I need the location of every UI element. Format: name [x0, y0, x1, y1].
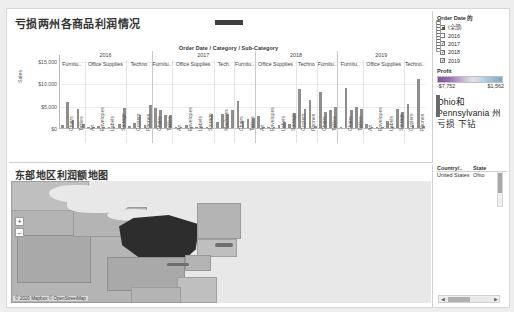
chart-bar[interactable] — [128, 126, 131, 128]
chart-subcategory-label[interactable]: Phones — [145, 114, 151, 131]
filter-item-2016[interactable]: 2016 — [436, 31, 507, 39]
chart-subcategory-label[interactable]: Tables — [78, 116, 84, 131]
chart-subcategory-label[interactable]: Labels — [388, 116, 394, 131]
legend-drag-handle[interactable] — [436, 95, 440, 117]
chart-subcategory-label[interactable]: Phones — [310, 114, 316, 131]
chart-category-header[interactable]: Furnitu.. — [152, 60, 173, 68]
chart-category-separator — [214, 60, 215, 143]
chart-year-header[interactable]: 2017 — [152, 51, 255, 59]
checkbox-icon[interactable] — [440, 58, 445, 63]
bar-chart-pane[interactable]: 亏损两州各商品利润情况 Order Date / Category / Sub-… — [9, 11, 433, 163]
chart-subcategory-label[interactable]: Copiers — [408, 113, 414, 131]
profit-color-ramp[interactable] — [437, 76, 503, 83]
chart-subcategory-label[interactable]: Art — [176, 124, 182, 131]
chart-subcategory-label[interactable]: Tables — [331, 116, 337, 131]
map-region-ohio[interactable] — [17, 235, 91, 283]
chart-subcategory-label[interactable]: Envelopes — [187, 107, 193, 131]
chart-subcategory-label[interactable]: Labels — [109, 116, 115, 131]
y-axis: $15,000$10,000$5,000$0 — [15, 55, 59, 129]
map-zoom-in-button[interactable]: + — [15, 217, 24, 226]
chart-category-header[interactable]: Office Supplies — [363, 60, 404, 68]
scroll-left-arrow[interactable]: ◀ — [439, 296, 446, 302]
chart-year-header[interactable]: 2019 — [337, 51, 425, 59]
chart-tooltip-tab[interactable] — [215, 20, 243, 25]
chart-category-header[interactable]: Techno — [296, 60, 317, 68]
order-date-filter-card[interactable]: Order Date 的 (全部)2016201720182019 — [436, 13, 507, 65]
profit-legend-min: -$7,752 — [437, 83, 455, 89]
chart-subcategory-label[interactable]: Chairs — [68, 116, 74, 131]
chart-subcategory-label[interactable]: Labels — [280, 116, 286, 131]
profit-legend-card[interactable]: Profit -$7,752 $1,562 — [436, 67, 507, 89]
chart-category-header[interactable]: Furnitu.. — [59, 60, 85, 68]
chart-subcategory-label[interactable]: Art — [367, 124, 373, 131]
chart-bar[interactable] — [61, 125, 64, 128]
chart-subcategory-label[interactable]: Chairs — [321, 116, 327, 131]
chart-subcategory-label[interactable]: Storage — [290, 113, 296, 131]
map-zoom-out-button[interactable]: – — [15, 228, 24, 237]
chart-subcategory-label[interactable]: Art — [89, 124, 95, 131]
y-axis-tick: $5,000 — [41, 104, 57, 110]
chart-bar[interactable] — [340, 127, 343, 128]
filter-item-label: 2016 — [448, 33, 460, 39]
chart-category-separator — [126, 60, 127, 143]
window-frame-right — [510, 0, 514, 312]
table-vertical-scrollbar[interactable] — [497, 171, 503, 207]
chart-year-header[interactable]: 2016 — [59, 51, 152, 59]
chart-category-separator — [85, 60, 86, 143]
filter-item-2017[interactable]: 2017 — [436, 40, 507, 48]
chart-subcategory-label[interactable]: Machines — [223, 109, 229, 131]
chart-subcategory-label[interactable]: Chairs — [238, 116, 244, 131]
chart-subcategory-label[interactable]: Envelopes — [99, 107, 105, 131]
chart-category-header[interactable]: Office Supplies — [172, 60, 213, 68]
map-region-new-england-north[interactable] — [197, 203, 241, 239]
chart-subcategory-label[interactable]: Envelopes — [269, 107, 275, 131]
panel-horizontal-scrollbar[interactable]: ◀ ▶ — [438, 295, 500, 303]
chart-subcategory-label[interactable]: Tables — [249, 116, 255, 131]
scrollbar-thumb[interactable] — [448, 297, 470, 302]
map-pane[interactable]: 东部地区利润额地图 — [9, 165, 433, 307]
chart-subcategory-label[interactable]: Labels — [197, 116, 203, 131]
chart-category-header[interactable]: Furnitu.. — [337, 60, 363, 68]
y-axis-tick: $10,000 — [38, 81, 57, 87]
filter-drag-handle[interactable] — [436, 20, 441, 52]
chart-subcategory-label[interactable]: Phones — [419, 114, 425, 131]
chart-category-header[interactable]: Techno — [126, 60, 152, 68]
chart-category-header[interactable]: Office Supplies — [85, 60, 126, 68]
filter-item-2018[interactable]: 2018 — [436, 48, 507, 56]
scroll-right-arrow[interactable]: ▶ — [492, 296, 499, 302]
chart-subcategory-label[interactable]: Storage — [120, 113, 126, 131]
chart-subcategory-label[interactable]: Chairs — [347, 116, 353, 131]
cell-country: United States — [436, 172, 472, 179]
order-date-filter-list[interactable]: (全部)2016201720182019 — [436, 23, 507, 65]
chart-subcategory-label[interactable]: Chairs — [156, 116, 162, 131]
chart-subcategory-label[interactable]: Tables — [357, 116, 363, 131]
chart-category-header[interactable]: Furnitu.. — [317, 60, 338, 68]
chart-year-header[interactable]: 2018 — [255, 51, 337, 59]
chart-subcategory-label[interactable]: Copiers — [300, 113, 306, 131]
chart-category-separator — [296, 60, 297, 143]
filter-item-全部[interactable]: (全部) — [436, 23, 507, 31]
map-region-west-virginia[interactable] — [131, 287, 181, 303]
map-canvas[interactable]: + – © 2020 Mapbox © OpenStreetMap — [11, 181, 431, 303]
chart-subcategory-label[interactable]: Storage — [398, 113, 404, 131]
map-region-maryland[interactable] — [177, 277, 217, 303]
chart-category-header[interactable]: Office Supplies — [255, 60, 296, 68]
order-date-filter-title: Order Date 的 — [436, 13, 507, 23]
chart-subcategory-label[interactable]: Envelopes — [377, 107, 383, 131]
chart-subcategory-label[interactable]: Storage — [207, 113, 213, 131]
chart-bar[interactable] — [216, 122, 219, 128]
table-scrollbar-thumb[interactable] — [498, 173, 502, 193]
chart-subcategory-label[interactable]: Copiers — [135, 113, 141, 131]
filter-item-2019[interactable]: 2019 — [436, 57, 507, 65]
chart-subcategory-label[interactable]: Tables — [166, 116, 172, 131]
map-ocean — [243, 181, 431, 303]
scrollbar-track[interactable] — [446, 297, 492, 302]
chart-category-separator — [363, 60, 364, 143]
y-axis-tick: $15,000 — [38, 59, 57, 65]
side-panel: Order Date 的 (全部)2016201720182019 Profit… — [434, 11, 509, 307]
chart-category-header[interactable]: Tech. — [214, 60, 235, 68]
chart-subcategory-label[interactable]: Art — [259, 124, 265, 131]
chart-category-header[interactable]: Techno.. — [404, 60, 425, 68]
filter-item-label: 2019 — [448, 58, 460, 64]
chart-category-header[interactable]: Furnitu.. — [234, 60, 255, 68]
